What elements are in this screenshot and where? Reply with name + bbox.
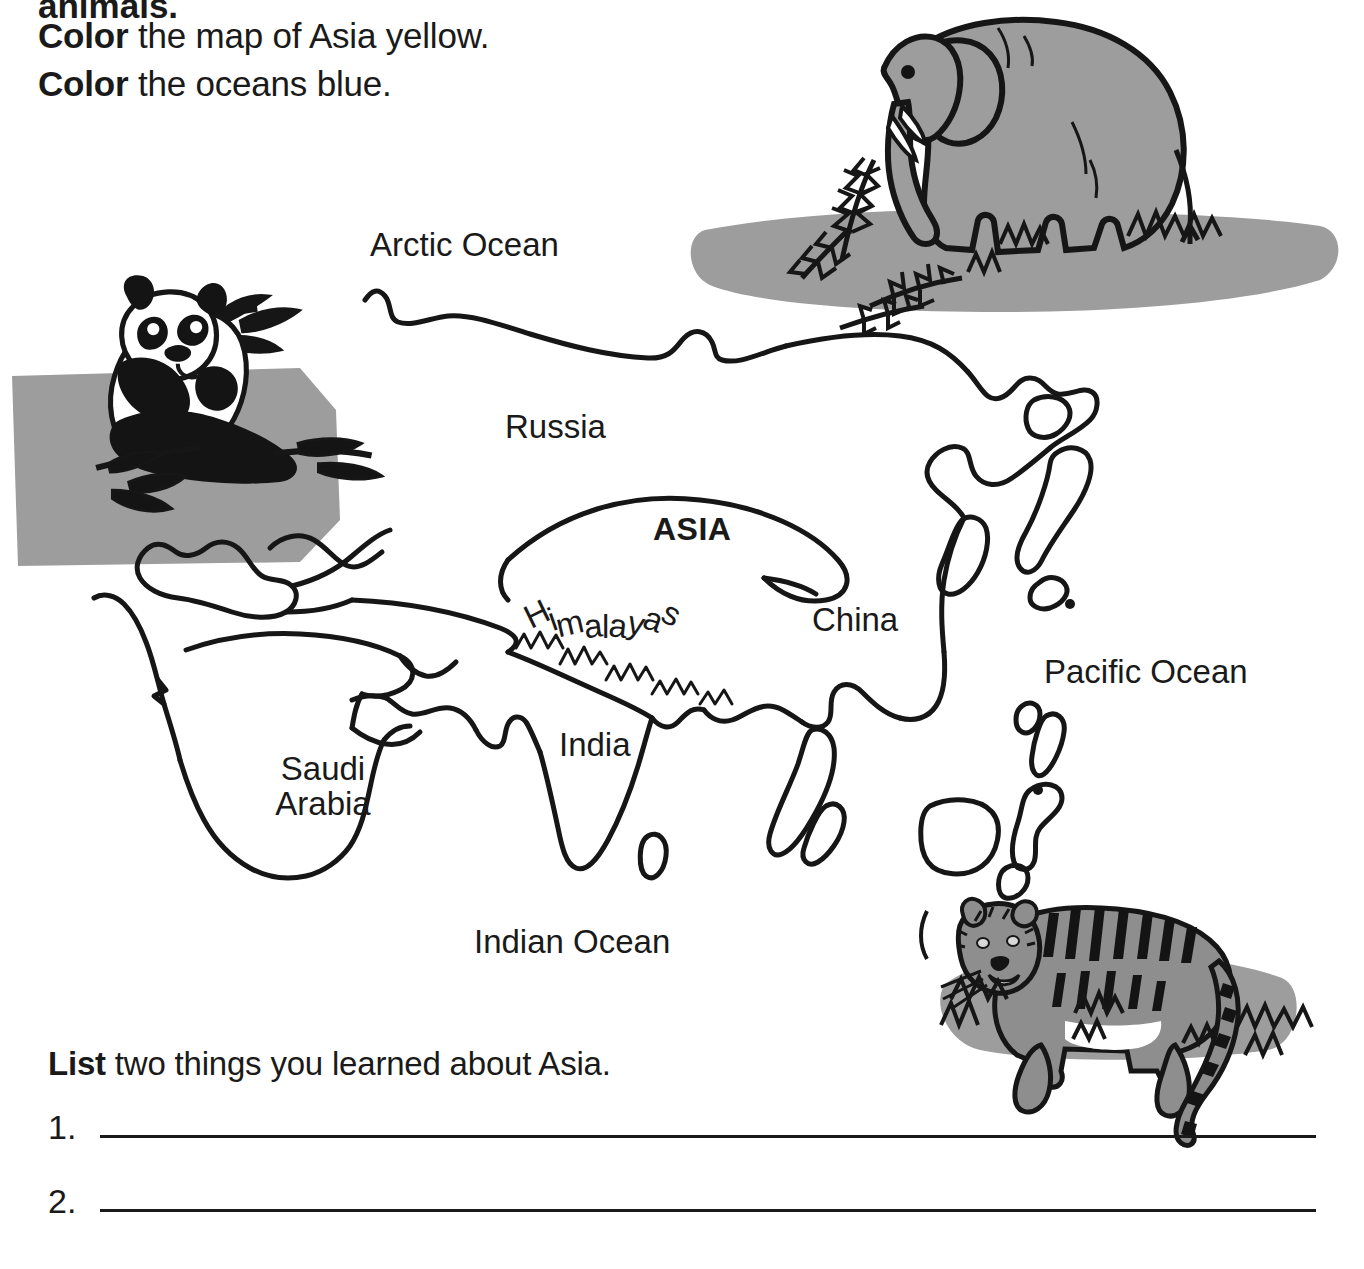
- tiger-ground-shade: [940, 952, 1296, 1060]
- tiger-whiskers: [941, 971, 987, 1009]
- bamboo-lower: [182, 325, 202, 472]
- tiger-nose: [990, 956, 1009, 971]
- panda-mouth: [178, 364, 198, 378]
- elephant-tusk-1: [900, 106, 926, 144]
- instruction-keyword-color: Color: [38, 64, 128, 103]
- tiger-eye-right: [1007, 936, 1019, 946]
- tiger-eye-left: [977, 938, 989, 948]
- map-label-indian-ocean: Indian Ocean: [474, 925, 670, 960]
- instruction-text: the map of Asia yellow.: [128, 16, 489, 55]
- tiger-grass: [941, 977, 1312, 1055]
- japan-island-dot: [1065, 599, 1075, 609]
- map-label-china: China: [812, 603, 898, 638]
- tiger-body: [995, 908, 1231, 1088]
- elephant-eye: [901, 65, 915, 79]
- elephant-illustration: [790, 20, 1221, 334]
- bamboo-branch-right: [274, 439, 382, 479]
- elephant-grass: [968, 212, 1221, 272]
- shade-patches: [12, 210, 1338, 1060]
- sri-lanka-island: [640, 834, 666, 878]
- tiger-ear-right: [1012, 901, 1037, 926]
- tiger-face-lines: [957, 907, 1035, 947]
- malay-peninsula: [803, 804, 844, 864]
- worksheet-page: animals. Color the map of Asia yellow. C…: [0, 0, 1364, 1269]
- elephant-foliage: [790, 158, 962, 334]
- tiger-illustration: [921, 899, 1312, 1145]
- bamboo-upper: [170, 296, 298, 370]
- panda-arm-upper: [195, 366, 238, 410]
- tiger-curve-mark: [921, 911, 927, 959]
- tiger-leg-back: [1157, 1045, 1189, 1116]
- indonesia-island-a: [921, 800, 999, 874]
- map-label-india: India: [559, 728, 631, 763]
- tiger-belly: [1065, 1021, 1161, 1050]
- panda-eye-patch-right: [177, 315, 208, 346]
- elephant-body: [908, 20, 1184, 252]
- map-label-himalayas: Himalayas: [525, 588, 679, 623]
- elephant-texture: [998, 28, 1097, 198]
- iran-shape: [270, 536, 382, 567]
- philippines-island-2: [1032, 714, 1065, 776]
- list-keyword: List: [48, 1045, 106, 1082]
- elephant-tusk-2: [888, 116, 916, 160]
- indonesia-island-c: [999, 865, 1029, 898]
- panda-ground-shade: [12, 368, 340, 566]
- map-label-saudi-arabia: Saudi Arabia: [243, 752, 403, 821]
- tiger-mouth: [989, 975, 1019, 985]
- japan-island-main: [1017, 448, 1091, 572]
- panda-legs: [110, 410, 297, 483]
- arabian-west-coast: [94, 595, 180, 760]
- answer-number: 1.: [48, 1110, 100, 1144]
- elephant-head: [884, 36, 961, 140]
- panda-ear-left: [124, 275, 154, 310]
- answer-write-line[interactable]: [100, 1209, 1316, 1212]
- japan-island-south: [1030, 578, 1067, 609]
- indochina-peninsula: [769, 729, 835, 855]
- map-label-arctic-ocean: Arctic Ocean: [370, 228, 559, 263]
- turkey-shape: [137, 542, 296, 617]
- philippines-dot: [1033, 785, 1043, 795]
- indonesia-island-b: [1012, 784, 1062, 869]
- instruction-line-color-oceans: Color the oceans blue.: [38, 66, 392, 101]
- panda-eye-right: [190, 321, 202, 333]
- panda-eye-left: [147, 323, 159, 335]
- map-label-saudi: Saudi: [243, 752, 403, 787]
- panda-body: [111, 311, 247, 461]
- instruction-keyword-color: Color: [38, 16, 128, 55]
- elephant-trunk: [888, 102, 937, 244]
- panda-illustration: [96, 275, 382, 511]
- map-label-russia: Russia: [505, 410, 606, 445]
- map-label-arabia: Arabia: [243, 787, 403, 822]
- japan-island-north: [1026, 397, 1070, 438]
- tiger-stripes: [1015, 907, 1197, 1011]
- tiger-head: [958, 904, 1039, 994]
- elephant-ground-shade: [691, 210, 1339, 312]
- panda-eye-patch-left: [137, 317, 168, 350]
- answer-write-line[interactable]: [100, 1135, 1316, 1138]
- tiger-ear-left: [962, 899, 985, 926]
- himalayas-letter: a: [582, 608, 604, 644]
- korea-peninsula: [939, 517, 988, 594]
- philippines-island-1: [1016, 703, 1040, 733]
- bamboo-branch-left: [96, 447, 200, 511]
- list-prompt-text: two things you learned about Asia.: [106, 1045, 611, 1082]
- tiger-leg-front: [1015, 1045, 1051, 1112]
- panda-head: [122, 292, 217, 380]
- list-prompt: List two things you learned about Asia.: [48, 1047, 611, 1080]
- answer-row[interactable]: 2.: [48, 1184, 1316, 1218]
- elephant-tail: [1176, 150, 1198, 244]
- panda-nose: [164, 345, 191, 362]
- instruction-line-color-map: Color the map of Asia yellow.: [38, 18, 489, 53]
- map-label-asia: ASIA: [653, 513, 731, 547]
- panda-arm-front: [118, 358, 190, 422]
- elephant-ear: [920, 40, 1002, 143]
- answer-row[interactable]: 1.: [48, 1110, 1316, 1144]
- panda-ear-right: [197, 283, 227, 315]
- map-label-pacific-ocean: Pacific Ocean: [1044, 655, 1248, 690]
- answer-number: 2.: [48, 1184, 100, 1218]
- instruction-text: the oceans blue.: [128, 64, 391, 103]
